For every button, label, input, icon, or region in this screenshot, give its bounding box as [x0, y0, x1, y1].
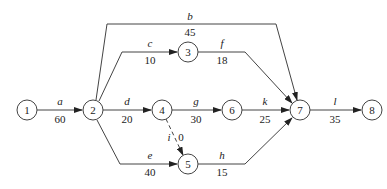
edge-a-duration: 60 — [55, 113, 67, 125]
node-8: 8 — [362, 100, 382, 120]
node-6: 6 — [222, 100, 242, 120]
edge-d-duration: 20 — [122, 113, 134, 125]
edge-f-duration: 18 — [217, 54, 229, 66]
edge-l-activity: l — [333, 95, 336, 107]
svg-text:6: 6 — [229, 104, 235, 116]
edge-i-duration: 0 — [178, 131, 184, 143]
edge-e: e 40 — [97, 120, 177, 178]
node-1: 1 — [17, 100, 37, 120]
edge-b-activity: b — [187, 10, 193, 22]
svg-text:7: 7 — [297, 104, 303, 116]
svg-text:4: 4 — [159, 104, 165, 116]
svg-text:8: 8 — [369, 104, 375, 116]
edge-d-activity: d — [124, 95, 130, 107]
node-2: 2 — [83, 100, 103, 120]
edge-h-duration: 15 — [217, 166, 229, 178]
edge-k: k 25 — [242, 95, 289, 125]
edge-l-duration: 35 — [330, 113, 342, 125]
edge-c: c 10 — [99, 37, 177, 101]
svg-text:2: 2 — [90, 104, 96, 116]
edge-f: f 18 — [198, 37, 292, 103]
edge-k-activity: k — [263, 95, 269, 107]
edge-g-activity: g — [193, 95, 199, 107]
node-5: 5 — [178, 154, 198, 174]
node-7: 7 — [290, 100, 310, 120]
edge-e-activity: e — [148, 149, 153, 161]
edge-g-duration: 30 — [191, 113, 203, 125]
edge-g: g 30 — [172, 95, 221, 125]
edge-h: h 15 — [198, 118, 292, 178]
node-4: 4 — [152, 100, 172, 120]
edge-c-duration: 10 — [145, 54, 157, 66]
edge-k-duration: 25 — [260, 113, 272, 125]
edge-e-duration: 40 — [145, 166, 157, 178]
edge-c-activity: c — [148, 37, 153, 49]
edge-f-activity: f — [220, 37, 225, 49]
edge-i-dummy: i 0 — [166, 119, 184, 155]
edge-a: a 60 — [37, 95, 82, 125]
edge-a-activity: a — [57, 95, 63, 107]
svg-text:3: 3 — [185, 46, 191, 58]
edge-d: d 20 — [103, 95, 151, 125]
svg-text:5: 5 — [185, 158, 191, 170]
svg-text:1: 1 — [24, 104, 30, 116]
edge-h-activity: h — [219, 149, 225, 161]
edge-l: l 35 — [310, 95, 361, 125]
node-3: 3 — [178, 42, 198, 62]
network-diagram: a 60 b 45 c 10 d 20 e 40 f 18 g 30 h 15 — [0, 0, 387, 189]
edge-b-duration: 45 — [185, 26, 197, 38]
edge-i-activity: i — [167, 131, 170, 143]
